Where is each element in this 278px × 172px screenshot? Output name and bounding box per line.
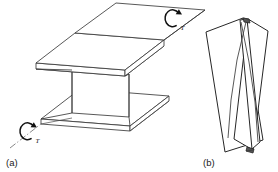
torque-label-near: T [36,137,41,145]
panel-b-caption: (b) [203,157,215,168]
top-flange-upper-extension [75,3,205,40]
figure-canvas: T T (a) [0,0,278,172]
torsion-figure: T T (a) [0,0,278,172]
panel-b-twisted-beam: (b) [203,18,268,168]
panel-a-ibeam: T T (a) [6,3,205,168]
torque-marker-near: T [20,122,41,144]
panel-a-caption: (a) [6,157,18,168]
web-left-face [72,70,129,117]
